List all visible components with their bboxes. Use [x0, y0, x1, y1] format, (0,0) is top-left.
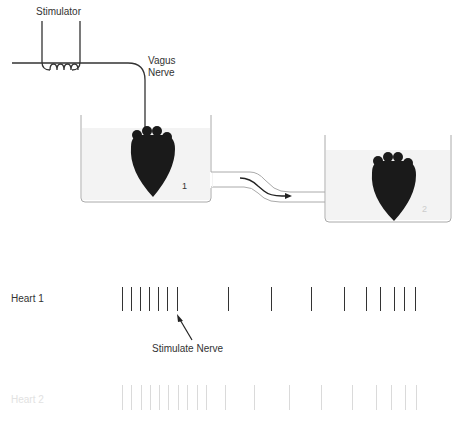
beat-mark [391, 385, 392, 410]
beat-mark [254, 385, 255, 410]
beat-mark [122, 385, 123, 410]
beaker-1-number: 1 [182, 180, 187, 192]
beat-mark [366, 287, 367, 311]
beat-mark [289, 385, 290, 410]
beat-mark [140, 287, 141, 311]
beat-mark [122, 287, 123, 311]
beat-mark [271, 287, 272, 311]
beat-mark [352, 385, 353, 410]
beat-mark [141, 385, 142, 410]
beat-mark [376, 385, 377, 410]
beat-mark [206, 385, 207, 410]
vagus-label-1: Vagus [148, 55, 176, 67]
beat-mark [187, 385, 188, 410]
beat-mark [380, 287, 381, 311]
beat-mark [168, 385, 169, 410]
vagus-label-2: Nerve [148, 67, 175, 79]
beat-mark [394, 287, 395, 311]
beat-mark [416, 385, 417, 410]
beat-mark [197, 385, 198, 410]
beat-mark [158, 287, 159, 311]
beaker-2-number: 2 [422, 203, 427, 215]
beat-mark [321, 385, 322, 410]
beat-mark [178, 385, 179, 410]
beat-mark [225, 385, 226, 410]
beat-mark [404, 287, 405, 311]
heart-1-trace-label: Heart 1 [11, 293, 44, 305]
beat-mark [344, 287, 345, 311]
beat-mark [159, 385, 160, 410]
stimulator-label: Stimulator [36, 6, 81, 18]
beat-mark [405, 385, 406, 410]
beat-mark [167, 287, 168, 311]
apparatus-diagram [0, 0, 466, 426]
beat-mark [131, 287, 132, 311]
beat-mark [149, 287, 150, 311]
connecting-tube [211, 172, 325, 202]
beat-mark [150, 385, 151, 410]
stimulate-nerve-label: Stimulate Nerve [152, 343, 223, 355]
beat-mark [177, 287, 178, 311]
beat-mark [131, 385, 132, 410]
heart-2-trace-label faint: Heart 2 [11, 394, 44, 406]
beat-mark [415, 287, 416, 311]
beat-mark [228, 287, 229, 311]
beat-mark [311, 287, 312, 311]
